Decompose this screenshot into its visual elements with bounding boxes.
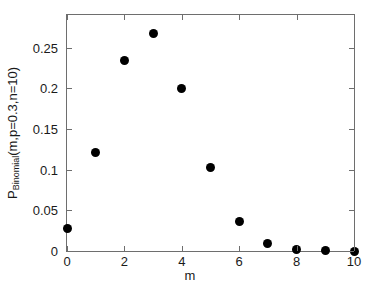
x-axis-tick bbox=[239, 246, 240, 251]
y-axis-tick-right bbox=[349, 129, 354, 130]
data-point bbox=[149, 29, 158, 38]
x-tick-label: 2 bbox=[121, 255, 128, 268]
y-axis-tick bbox=[67, 210, 72, 211]
data-point bbox=[177, 84, 186, 93]
y-axis-tick bbox=[67, 88, 72, 89]
y-axis-tick bbox=[67, 48, 72, 49]
y-axis-tick-right bbox=[349, 170, 354, 171]
data-point bbox=[120, 56, 129, 65]
y-axis-tick-right bbox=[349, 210, 354, 211]
x-axis-label: m bbox=[0, 268, 380, 283]
data-point bbox=[321, 246, 330, 255]
x-axis-tick bbox=[124, 246, 125, 251]
data-point bbox=[235, 217, 244, 226]
plot-area bbox=[66, 14, 355, 252]
y-axis-label-container: PBinomial(m,p=0.3,n=10) bbox=[0, 0, 26, 266]
y-axis-tick bbox=[67, 170, 72, 171]
x-axis-tick-top bbox=[239, 15, 240, 20]
y-axis-label-main: P bbox=[5, 190, 20, 199]
y-tick-label: 0.1 bbox=[40, 163, 58, 176]
y-axis-tick bbox=[67, 129, 72, 130]
y-axis-tick-right bbox=[349, 48, 354, 49]
x-axis-tick bbox=[297, 246, 298, 251]
x-axis-tick-top bbox=[124, 15, 125, 20]
x-axis-tick-top bbox=[182, 15, 183, 20]
y-axis-tick-right bbox=[349, 251, 354, 252]
y-tick-label: 0.25 bbox=[33, 41, 58, 54]
y-tick-label: 0 bbox=[51, 245, 58, 258]
x-tick-label: 0 bbox=[63, 255, 70, 268]
x-axis-tick bbox=[354, 246, 355, 251]
data-point bbox=[63, 224, 72, 233]
x-tick-label: 10 bbox=[347, 255, 361, 268]
data-point bbox=[91, 148, 100, 157]
binomial-pmf-figure: PBinomial(m,p=0.3,n=10) 00.050.10.150.20… bbox=[0, 0, 380, 293]
data-points-layer bbox=[67, 15, 354, 251]
y-tick-label: 0.2 bbox=[40, 82, 58, 95]
data-point bbox=[263, 239, 272, 248]
x-axis-tick-top bbox=[354, 15, 355, 20]
x-tick-label: 4 bbox=[178, 255, 185, 268]
y-axis-label-subscript: Binomial bbox=[11, 156, 21, 191]
x-tick-label: 8 bbox=[293, 255, 300, 268]
y-axis-label: PBinomial(m,p=0.3,n=10) bbox=[6, 67, 20, 199]
data-point bbox=[206, 163, 215, 172]
x-axis-tick-top bbox=[297, 15, 298, 20]
y-axis-tick bbox=[67, 251, 72, 252]
y-tick-label: 0.05 bbox=[33, 204, 58, 217]
y-axis-tick-right bbox=[349, 88, 354, 89]
y-axis-label-arguments: (m,p=0.3,n=10) bbox=[5, 67, 20, 156]
x-axis-tick bbox=[67, 246, 68, 251]
x-axis-tick bbox=[182, 246, 183, 251]
x-axis-tick-top bbox=[67, 15, 68, 20]
y-tick-label: 0.15 bbox=[33, 122, 58, 135]
x-tick-label: 6 bbox=[236, 255, 243, 268]
